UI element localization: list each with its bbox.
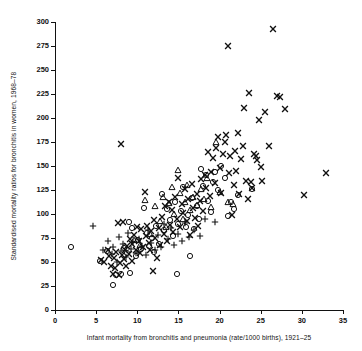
x-tick-label: 15 bbox=[174, 317, 182, 325]
y-tick-label: 0 bbox=[45, 306, 49, 314]
y-tick bbox=[51, 190, 55, 191]
x-tick bbox=[96, 310, 97, 314]
x-tick bbox=[178, 310, 179, 314]
y-tick bbox=[51, 118, 55, 119]
x-tick bbox=[261, 310, 262, 314]
x-tick bbox=[343, 310, 344, 314]
y-tick-label: 50 bbox=[41, 258, 49, 266]
y-tick-label: 175 bbox=[36, 138, 49, 146]
x-tick bbox=[302, 310, 303, 314]
y-tick bbox=[51, 142, 55, 143]
x-tick-label: 20 bbox=[215, 317, 223, 325]
x-tick bbox=[220, 310, 221, 314]
x-tick-label: 25 bbox=[257, 317, 265, 325]
y-tick bbox=[51, 238, 55, 239]
y-tick-label: 300 bbox=[36, 18, 49, 26]
y-tick bbox=[51, 22, 55, 23]
y-tick-label: 250 bbox=[36, 66, 49, 74]
y-tick bbox=[51, 286, 55, 287]
y-tick bbox=[51, 94, 55, 95]
scatter-chart-figure: Standardised mortality ratios for bronch… bbox=[0, 0, 362, 351]
y-tick-label: 125 bbox=[36, 186, 49, 194]
x-axis-title: Infant mortality from bronchitis and pne… bbox=[55, 333, 343, 343]
x-tick-label: 5 bbox=[94, 317, 98, 325]
y-tick-label: 200 bbox=[36, 114, 49, 122]
x-tick-label: 35 bbox=[339, 317, 347, 325]
y-tick-label: 100 bbox=[36, 210, 49, 218]
y-tick-label: 150 bbox=[36, 162, 49, 170]
plot-area: 0255075100125150175200225250275300 05101… bbox=[55, 22, 343, 310]
y-tick-label: 225 bbox=[36, 90, 49, 98]
y-tick-label: 275 bbox=[36, 42, 49, 50]
y-tick-label: 75 bbox=[41, 234, 49, 242]
y-tick bbox=[51, 46, 55, 47]
y-axis-title: Standardised mortality ratios for bronch… bbox=[8, 22, 20, 310]
y-tick-label: 25 bbox=[41, 282, 49, 290]
y-tick bbox=[51, 70, 55, 71]
x-tick-label: 10 bbox=[133, 317, 141, 325]
y-axis-line bbox=[55, 22, 56, 310]
x-tick bbox=[55, 310, 56, 314]
x-tick-label: 0 bbox=[53, 317, 57, 325]
x-axis-line bbox=[55, 310, 343, 311]
y-tick bbox=[51, 214, 55, 215]
y-tick bbox=[51, 262, 55, 263]
x-tick-label: 30 bbox=[298, 317, 306, 325]
x-tick bbox=[137, 310, 138, 314]
y-tick bbox=[51, 166, 55, 167]
